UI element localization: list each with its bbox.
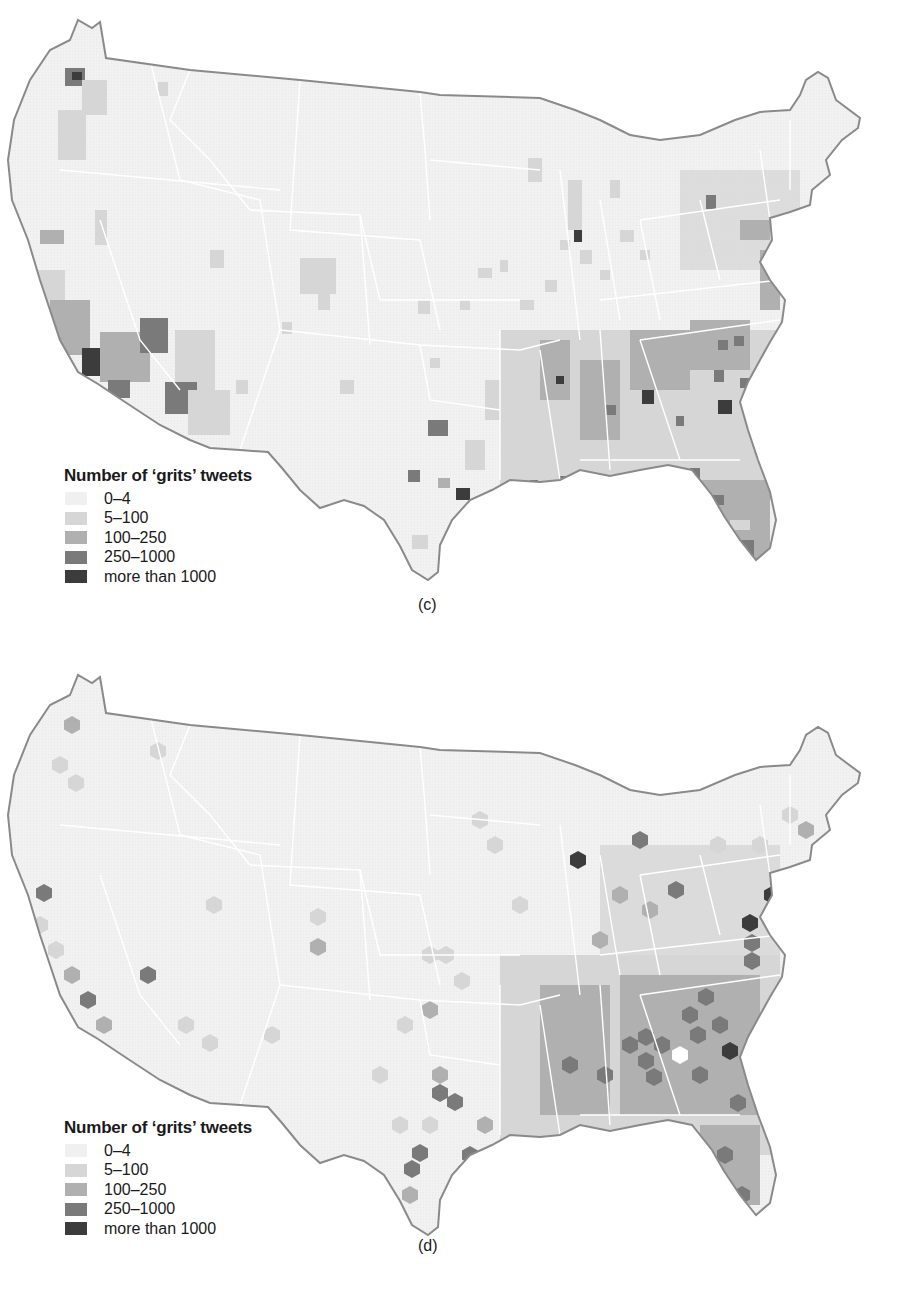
legend-item-5-100: 5–100: [64, 1161, 252, 1181]
legend-label: 5–100: [104, 1161, 149, 1179]
map-panel-c: Number of ‘grits’ tweets 0–4 5–100 100–2…: [0, 0, 917, 640]
legend-c: Number of ‘grits’ tweets 0–4 5–100 100–2…: [64, 466, 252, 587]
legend-item-100-250: 100–250: [64, 528, 252, 548]
legend-item-more-than-1000: more than 1000: [64, 1219, 252, 1239]
legend-label: more than 1000: [104, 1220, 216, 1238]
panel-caption-d: (d): [418, 1237, 438, 1255]
legend-item-5-100: 5–100: [64, 509, 252, 529]
legend-item-more-than-1000: more than 1000: [64, 567, 252, 587]
legend-swatch: [65, 512, 87, 525]
legend-label: 250–1000: [104, 548, 175, 566]
panel-caption-c: (c): [418, 596, 437, 614]
legend-label: more than 1000: [104, 568, 216, 586]
legend-swatch: [65, 570, 87, 583]
legend-item-100-250: 100–250: [64, 1180, 252, 1200]
legend-item-0-4: 0–4: [64, 489, 252, 509]
legend-label: 100–250: [104, 529, 166, 547]
legend-item-250-1000: 250–1000: [64, 548, 252, 568]
legend-title: Number of ‘grits’ tweets: [64, 1118, 252, 1138]
legend-swatch: [65, 531, 87, 544]
legend-label: 250–1000: [104, 1200, 175, 1218]
legend-label: 5–100: [104, 509, 149, 527]
legend-item-0-4: 0–4: [64, 1141, 252, 1161]
legend-swatch: [65, 1203, 87, 1216]
legend-swatch: [65, 492, 87, 505]
legend-swatch: [65, 1164, 87, 1177]
legend-label: 0–4: [104, 490, 131, 508]
legend-swatch: [65, 1183, 87, 1196]
legend-swatch: [65, 551, 87, 564]
legend-label: 100–250: [104, 1181, 166, 1199]
legend-d: Number of ‘grits’ tweets 0–4 5–100 100–2…: [64, 1118, 252, 1239]
legend-label: 0–4: [104, 1142, 131, 1160]
legend-title: Number of ‘grits’ tweets: [64, 466, 252, 486]
map-panel-d: Number of ‘grits’ tweets 0–4 5–100 100–2…: [0, 655, 917, 1309]
legend-item-250-1000: 250–1000: [64, 1200, 252, 1220]
legend-swatch: [65, 1144, 87, 1157]
legend-swatch: [65, 1222, 87, 1235]
